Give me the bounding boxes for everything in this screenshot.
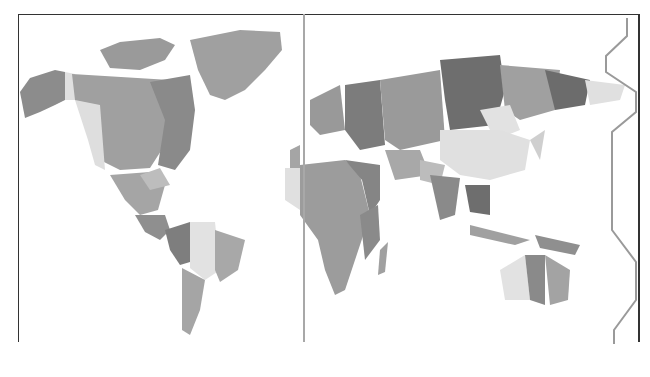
map-frame (18, 14, 640, 342)
utc-meridian (303, 14, 305, 342)
